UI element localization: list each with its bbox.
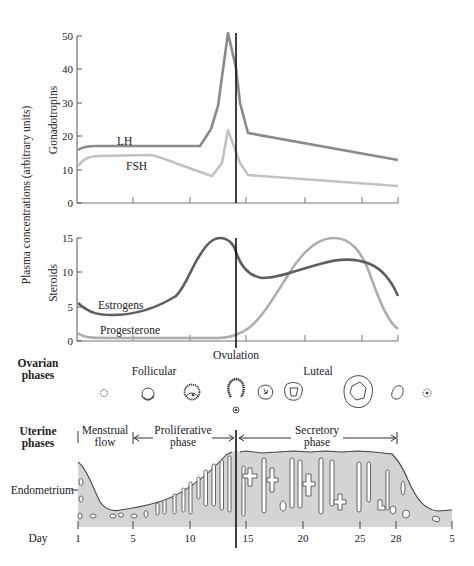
day-tick: 10 bbox=[185, 532, 197, 544]
y-tick: 5 bbox=[68, 301, 74, 313]
y-tick: 40 bbox=[62, 63, 74, 75]
day-tick: 25 bbox=[355, 532, 367, 544]
y-axis-title: Plasma concentrations (arbitrary units) bbox=[20, 106, 33, 285]
progesterone-label: Progesterone bbox=[100, 324, 160, 337]
menstrual-flow-label: flow bbox=[94, 436, 116, 448]
ovarian-phases: Ovarian phases Follicular Luteal bbox=[18, 357, 431, 413]
y-tick: 10 bbox=[62, 266, 74, 278]
luteal-label: Luteal bbox=[303, 365, 332, 377]
steroids-chart: Steroids 0 5 10 15 Estrogens Progesteron… bbox=[47, 232, 398, 347]
menstrual-cycle-diagram: Plasma concentrations (arbitrary units) … bbox=[0, 0, 474, 566]
y-tick: 15 bbox=[62, 232, 74, 244]
y-tick: 0 bbox=[68, 335, 74, 347]
uterine-phases-heading: Uterine bbox=[19, 425, 56, 437]
ovarian-phases-heading: phases bbox=[22, 369, 55, 382]
y-tick: 10 bbox=[62, 164, 74, 176]
menstrual-flow-label: Menstrual bbox=[82, 424, 129, 436]
fsh-label: FSH bbox=[126, 160, 147, 172]
ovarian-phases-heading: Ovarian bbox=[18, 357, 59, 369]
y-tick: 20 bbox=[62, 130, 74, 142]
y-tick: 30 bbox=[62, 97, 74, 109]
y-tick: 0 bbox=[68, 197, 74, 209]
gonadotropins-chart: Gonadotropins 0 10 20 30 40 50 bbox=[47, 30, 398, 209]
ruptured-follicle-icon bbox=[228, 379, 243, 413]
day-tick: 15 bbox=[243, 532, 255, 544]
steroids-axis-label: Steroids bbox=[47, 264, 59, 302]
uterine-phases: Uterine phases Menstrual flow Proliferat… bbox=[11, 424, 452, 527]
uterine-phases-heading: phases bbox=[22, 437, 55, 450]
day-tick: 20 bbox=[298, 532, 310, 544]
early-corpus-luteum-icon bbox=[258, 385, 272, 399]
secretory-phase-label: phase bbox=[304, 436, 330, 449]
y-tick: 50 bbox=[62, 30, 74, 42]
endometrium-label: Endometrium bbox=[11, 484, 74, 496]
secondary-follicle-icon bbox=[185, 385, 200, 400]
progesterone-line bbox=[78, 238, 398, 338]
day-tick: 1 bbox=[75, 532, 81, 544]
endometrium-illustration bbox=[78, 450, 452, 527]
day-tick: 5 bbox=[130, 532, 136, 544]
proliferative-phase-label: Proliferative bbox=[154, 424, 211, 436]
primordial-follicle-icon bbox=[101, 390, 108, 397]
proliferative-phase-label: phase bbox=[170, 436, 196, 449]
new-follicle-icon bbox=[423, 389, 431, 397]
corpus-albicans-icon bbox=[392, 386, 403, 399]
day-tick: 28 bbox=[391, 532, 403, 544]
gonadotropins-axis-label: Gonadotropins bbox=[47, 85, 60, 154]
day-tick: 5 bbox=[449, 532, 455, 544]
follicular-label: Follicular bbox=[132, 365, 177, 377]
lh-label: LH bbox=[117, 135, 132, 147]
ovulation-label: Ovulation bbox=[213, 349, 259, 361]
estrogens-label: Estrogens bbox=[98, 299, 144, 312]
primary-follicle-icon bbox=[142, 388, 154, 400]
corpus-luteum-icon bbox=[285, 383, 303, 401]
mature-corpus-luteum-icon bbox=[344, 376, 372, 408]
day-axis-label: Day bbox=[28, 532, 47, 545]
